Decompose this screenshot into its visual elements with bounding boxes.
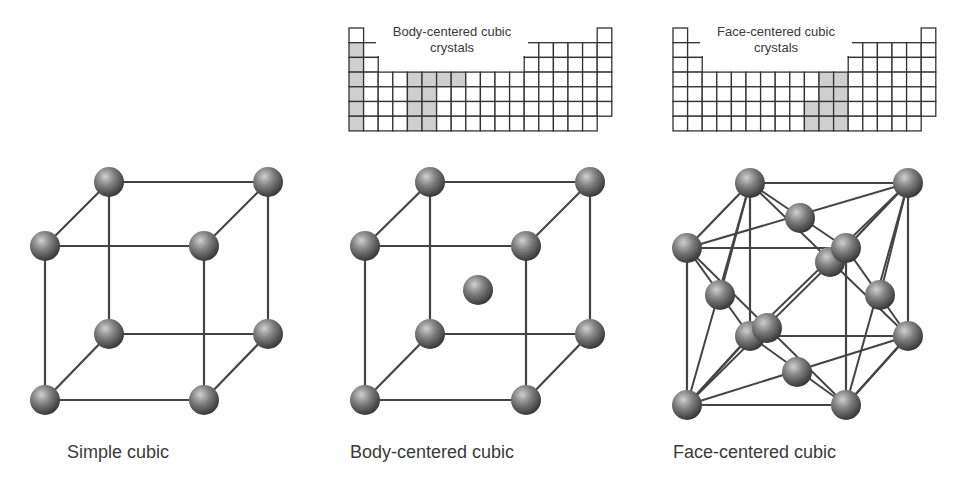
element-cell	[524, 116, 539, 131]
atom-sphere	[511, 231, 541, 261]
element-cell	[539, 43, 554, 58]
bcc-title-line1: Body-centered cubic	[376, 24, 528, 40]
element-cell	[597, 72, 612, 87]
element-cell	[480, 72, 495, 87]
element-cell	[848, 87, 863, 102]
element-cell	[746, 116, 761, 131]
element-cell	[892, 43, 907, 58]
lattice-diagrams	[30, 167, 923, 420]
element-cell	[393, 72, 408, 87]
element-cell	[921, 87, 936, 102]
element-cell	[349, 43, 364, 58]
atom-sphere	[415, 167, 445, 197]
element-cell	[349, 28, 364, 43]
element-cell	[746, 87, 761, 102]
atom-sphere	[94, 319, 124, 349]
element-cell	[688, 116, 703, 131]
element-cell	[907, 72, 922, 87]
element-cell	[480, 102, 495, 117]
element-cell	[848, 116, 863, 131]
element-cell	[819, 87, 834, 102]
element-cell	[673, 57, 688, 72]
element-cell	[673, 102, 688, 117]
atom-sphere	[94, 167, 124, 197]
element-cell	[717, 116, 732, 131]
bonds	[45, 182, 268, 400]
atom-sphere	[672, 233, 702, 263]
element-cell	[378, 72, 393, 87]
element-cell	[364, 102, 379, 117]
atom-sphere	[575, 319, 605, 349]
element-cell	[863, 72, 878, 87]
atom-sphere	[189, 385, 219, 415]
atom-sphere	[415, 319, 445, 349]
element-cell	[568, 43, 583, 58]
element-cell	[378, 87, 393, 102]
element-cell	[510, 102, 525, 117]
element-cell	[863, 43, 878, 58]
element-cell	[407, 116, 422, 131]
element-cell	[568, 72, 583, 87]
atom-sphere	[253, 167, 283, 197]
element-cell	[746, 72, 761, 87]
element-cell	[597, 102, 612, 117]
element-cell	[834, 102, 849, 117]
element-cell	[597, 87, 612, 102]
element-cell	[553, 116, 568, 131]
element-cell	[761, 87, 776, 102]
element-cell	[819, 116, 834, 131]
element-cell	[877, 102, 892, 117]
element-cell	[451, 116, 466, 131]
element-cell	[775, 72, 790, 87]
atom-sphere	[30, 385, 60, 415]
element-cell	[364, 116, 379, 131]
atom-sphere	[672, 390, 702, 420]
element-cell	[717, 87, 732, 102]
element-cell	[892, 72, 907, 87]
element-cell	[349, 87, 364, 102]
element-cell	[553, 43, 568, 58]
element-cell	[393, 87, 408, 102]
caption-simple-cubic: Simple cubic	[67, 442, 169, 463]
element-cell	[921, 102, 936, 117]
element-cell	[717, 72, 732, 87]
element-cell	[422, 72, 437, 87]
atom-sphere	[831, 390, 861, 420]
element-cell	[422, 116, 437, 131]
bcc-table-title: Body-centered cubic crystals	[376, 24, 528, 56]
element-cell	[863, 116, 878, 131]
element-cell	[524, 72, 539, 87]
element-cell	[597, 28, 612, 43]
element-cell	[834, 72, 849, 87]
atom-sphere	[705, 280, 735, 310]
element-cell	[539, 116, 554, 131]
body-centered-cubic-lattice	[350, 167, 605, 415]
element-cell	[495, 72, 510, 87]
element-cell	[553, 87, 568, 102]
element-cell	[804, 116, 819, 131]
element-cell	[583, 72, 598, 87]
atom-sphere	[752, 313, 782, 343]
element-cell	[702, 72, 717, 87]
element-cell	[466, 87, 481, 102]
element-cell	[466, 72, 481, 87]
element-cell	[688, 102, 703, 117]
element-cell	[863, 87, 878, 102]
element-cell	[848, 57, 863, 72]
element-cell	[407, 87, 422, 102]
element-cell	[466, 102, 481, 117]
element-cell	[892, 87, 907, 102]
element-cell	[731, 102, 746, 117]
element-cell	[378, 102, 393, 117]
element-cell	[539, 102, 554, 117]
atom-sphere	[782, 357, 812, 387]
element-cell	[790, 72, 805, 87]
element-cell	[553, 72, 568, 87]
element-cell	[761, 116, 776, 131]
element-cell	[673, 116, 688, 131]
element-cell	[834, 116, 849, 131]
atom-sphere	[831, 233, 861, 263]
element-cell	[790, 102, 805, 117]
element-cell	[907, 43, 922, 58]
element-cell	[877, 72, 892, 87]
